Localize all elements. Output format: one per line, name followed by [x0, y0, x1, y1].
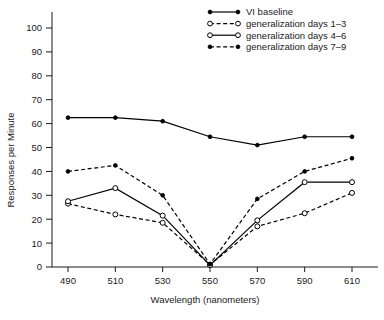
legend-marker-3 [236, 45, 240, 49]
y-tick-label-20: 20 [31, 214, 42, 225]
legend-label-0: VI baseline [246, 6, 293, 17]
y-axis-title: Responses per Minute [5, 112, 16, 207]
x-axis-title: Wavelength (nanometers) [151, 294, 260, 305]
data-point [66, 199, 71, 204]
legend-marker-1 [236, 21, 241, 26]
x-tick-label-550: 550 [202, 275, 218, 286]
y-tick-label-40: 40 [31, 166, 42, 177]
data-point [113, 212, 118, 217]
data-point [66, 116, 70, 120]
y-tick-label-50: 50 [31, 142, 42, 153]
data-point [255, 143, 259, 147]
data-point [255, 224, 260, 229]
y-tick-label-80: 80 [31, 70, 42, 81]
y-tick-label-90: 90 [31, 46, 42, 57]
data-point [350, 135, 354, 139]
data-point [161, 119, 165, 123]
y-tick-label-60: 60 [31, 118, 42, 129]
data-point [113, 116, 117, 120]
data-point [255, 218, 260, 223]
y-tick-label-0: 0 [37, 261, 42, 272]
legend-label-3: generalization days 7–9 [246, 41, 346, 52]
legend-marker-3 [208, 45, 212, 49]
data-point [302, 211, 307, 216]
legend-marker-0 [236, 10, 240, 14]
data-point [350, 156, 354, 160]
x-tick-label-490: 490 [60, 275, 76, 286]
x-tick-label-610: 610 [344, 275, 360, 286]
data-point [208, 135, 212, 139]
x-tick-label-530: 530 [155, 275, 171, 286]
data-point [161, 193, 165, 197]
data-point [302, 180, 307, 185]
legend-label-1: generalization days 1–3 [246, 18, 346, 29]
legend-marker-1 [208, 21, 213, 26]
legend-label-2: generalization days 4–6 [246, 30, 346, 41]
x-tick-label-590: 590 [297, 275, 313, 286]
x-tick-label-570: 570 [249, 275, 265, 286]
data-point [303, 135, 307, 139]
data-point [160, 220, 165, 225]
data-point [350, 190, 355, 195]
data-point [113, 164, 117, 168]
legend-marker-2 [236, 33, 241, 38]
data-point [303, 170, 307, 174]
y-tick-label-100: 100 [26, 22, 42, 33]
x-tick-label-510: 510 [107, 275, 123, 286]
data-point [113, 186, 118, 191]
y-tick-label-70: 70 [31, 94, 42, 105]
y-tick-label-10: 10 [31, 238, 42, 249]
data-point [208, 262, 212, 266]
legend-marker-0 [208, 10, 212, 14]
data-point [255, 197, 259, 201]
legend-marker-2 [208, 33, 213, 38]
y-tick-label-30: 30 [31, 190, 42, 201]
data-point [160, 213, 165, 218]
data-point [350, 180, 355, 185]
chart-canvas: 0102030405060708090100 Responses per Min… [0, 0, 384, 320]
generalization-gradient-chart: 0102030405060708090100 Responses per Min… [0, 0, 384, 320]
data-point [66, 170, 70, 174]
